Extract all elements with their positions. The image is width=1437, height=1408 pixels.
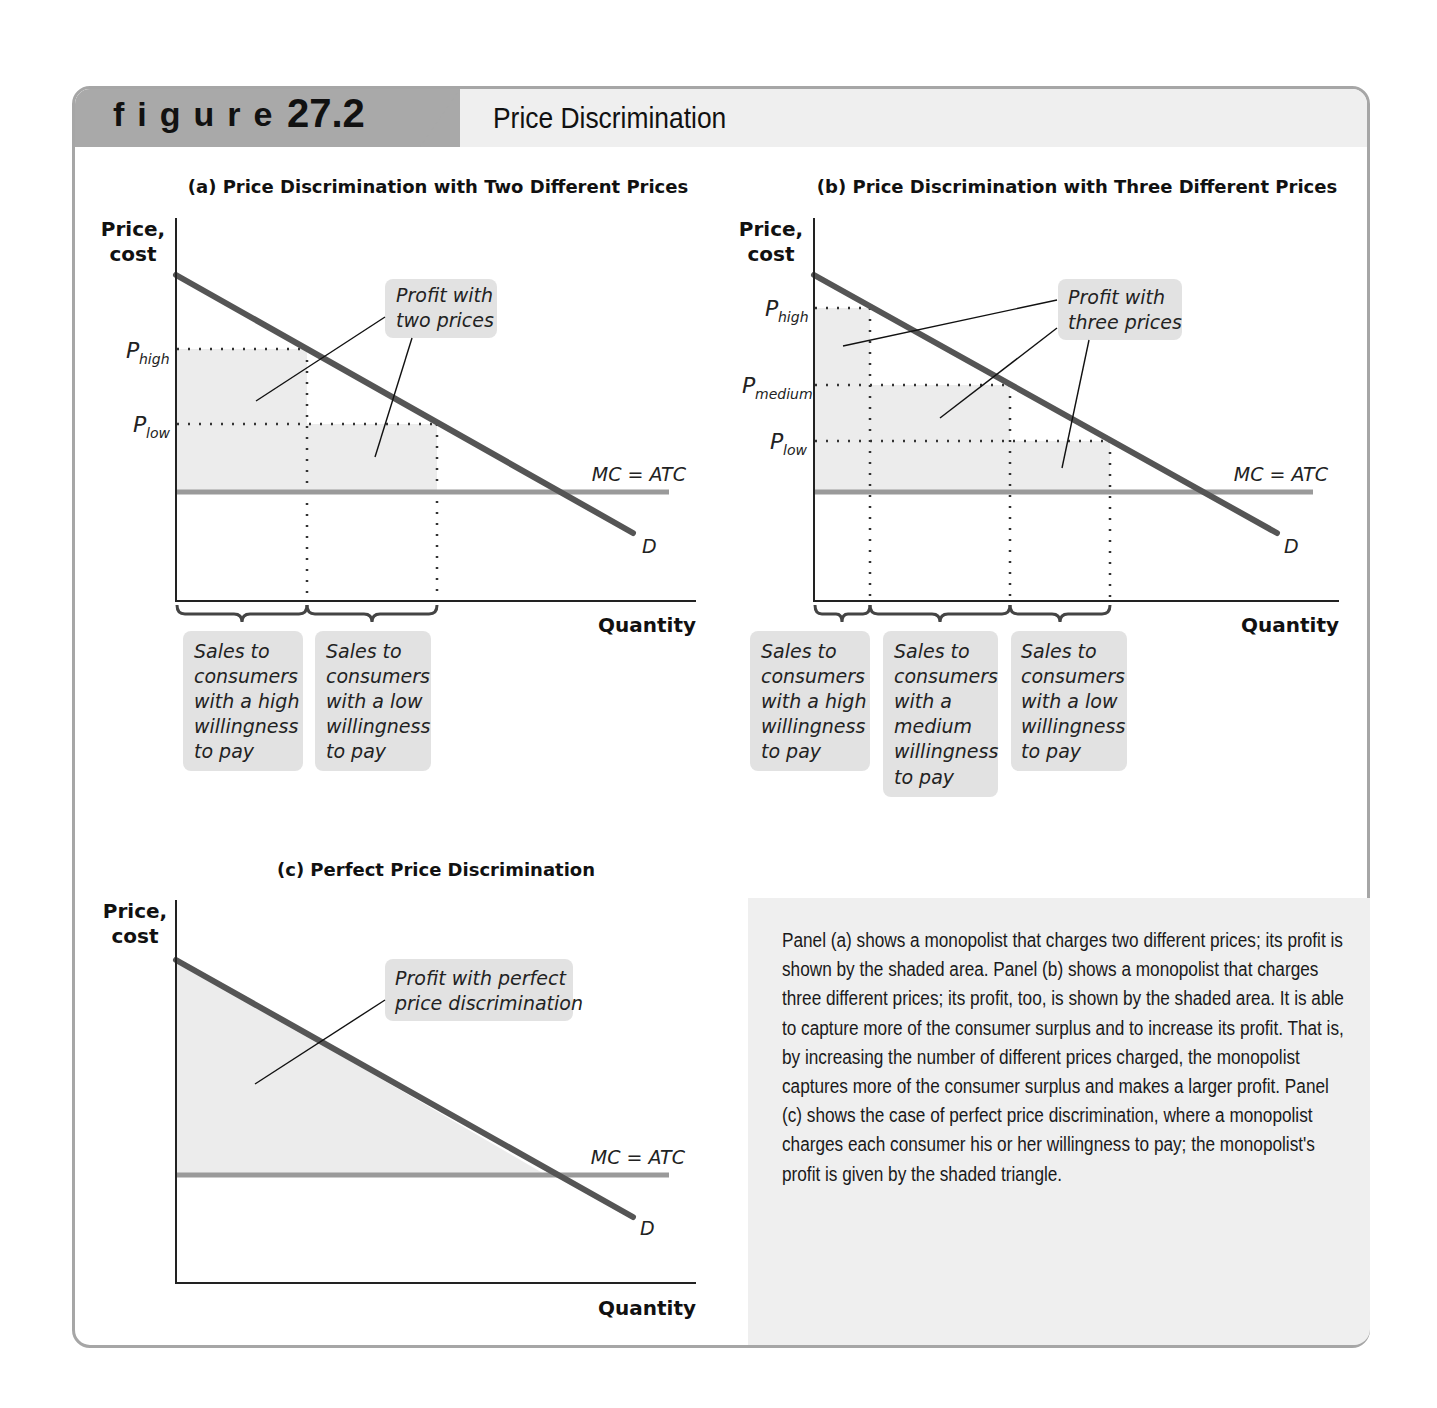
brace-low — [307, 605, 437, 622]
p-medium-subscript: medium — [755, 386, 813, 402]
segment-text: with a high — [194, 690, 299, 712]
profit-area-high — [815, 308, 870, 492]
segment-text: Sales to — [761, 640, 837, 662]
brace-low — [1010, 605, 1110, 622]
brace-medium — [870, 605, 1010, 622]
profit-label-line2: price discrimination — [394, 992, 583, 1014]
x-axis-label: Quantity — [598, 1296, 696, 1320]
profit-area-low — [307, 424, 437, 492]
segment-text: consumers — [194, 665, 298, 687]
y-axis-label-2: cost — [109, 242, 157, 266]
p-low-letter: P — [133, 412, 147, 437]
panel-a-title: (a) Price Discrimination with Two Differ… — [188, 176, 688, 197]
demand-label: D — [642, 535, 657, 557]
segment-text: Sales to — [1021, 640, 1097, 662]
brace-high — [815, 605, 870, 622]
segment-text: Sales to — [894, 640, 970, 662]
segment-text: to pay — [1021, 740, 1082, 762]
p-high-letter: P — [126, 338, 140, 363]
segment-text: consumers — [326, 665, 430, 687]
mc-atc-label: MC = ATC — [592, 463, 687, 485]
profit-label-line2: three prices — [1068, 311, 1182, 333]
segment-text: willingness — [326, 715, 430, 737]
y-axis-label: Price, — [103, 899, 167, 923]
segment-text: with a high — [761, 690, 866, 712]
y-axis-label-2: cost — [111, 924, 159, 948]
segment-text: willingness — [894, 740, 998, 762]
segment-text: with a — [894, 690, 952, 712]
panel-b: (b) Price Discrimination with Three Diff… — [739, 176, 1339, 797]
segment-text: Sales to — [194, 640, 270, 662]
segment-text: to pay — [326, 740, 387, 762]
panel-a: (a) Price Discrimination with Two Differ… — [101, 176, 696, 771]
segment-text: to pay — [894, 766, 955, 788]
segment-text: consumers — [1021, 665, 1125, 687]
charts-canvas: (a) Price Discrimination with Two Differ… — [0, 0, 1437, 1408]
segment-text: with a low — [1021, 690, 1118, 712]
segment-text: with a low — [326, 690, 423, 712]
segment-text: Sales to — [326, 640, 402, 662]
segment-text: willingness — [1021, 715, 1125, 737]
segment-text: to pay — [194, 740, 255, 762]
p-high-subscript: high — [139, 351, 170, 367]
p-high-subscript: high — [778, 309, 809, 325]
profit-label-line1: Profit with perfect — [395, 967, 567, 989]
y-axis-label: Price, — [101, 217, 165, 241]
p-low-subscript: low — [146, 425, 170, 441]
x-axis-label: Quantity — [1241, 613, 1339, 637]
y-axis-label: Price, — [739, 217, 803, 241]
profit-label-line2: two prices — [396, 309, 494, 331]
profit-label-line1: Profit with — [396, 284, 493, 306]
profit-label-line1: Profit with — [1068, 286, 1165, 308]
brace-high — [177, 605, 307, 622]
panel-c-title: (c) Perfect Price Discrimination — [277, 859, 595, 880]
profit-area-high — [177, 349, 307, 492]
segment-text: consumers — [894, 665, 998, 687]
p-medium-letter: P — [742, 373, 756, 398]
mc-atc-label: MC = ATC — [1234, 463, 1329, 485]
panel-b-title: (b) Price Discrimination with Three Diff… — [817, 176, 1337, 197]
segment-text: willingness — [194, 715, 298, 737]
profit-area-low — [1010, 441, 1110, 492]
segment-text: medium — [894, 715, 972, 737]
segment-text: to pay — [761, 740, 822, 762]
y-axis-label-2: cost — [747, 242, 795, 266]
demand-label: D — [1284, 535, 1299, 557]
p-high-letter: P — [765, 296, 779, 321]
p-low-letter: P — [770, 429, 784, 454]
segment-text: consumers — [761, 665, 865, 687]
mc-atc-label: MC = ATC — [591, 1146, 686, 1168]
segment-text: willingness — [761, 715, 865, 737]
demand-label: D — [640, 1217, 655, 1239]
x-axis-label: Quantity — [598, 613, 696, 637]
p-low-subscript: low — [783, 442, 807, 458]
panel-c: (c) Perfect Price Discrimination Price, … — [103, 859, 696, 1320]
profit-area-medium — [870, 385, 1010, 492]
